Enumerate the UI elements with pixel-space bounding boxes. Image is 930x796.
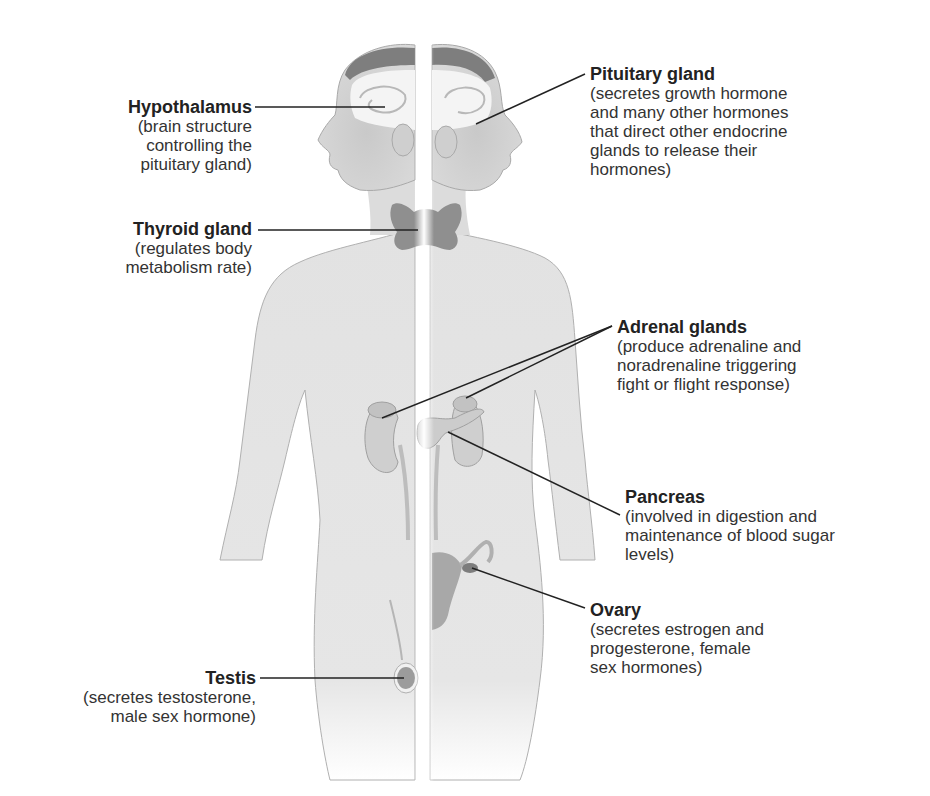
pituitary-title: Pituitary gland [590, 64, 850, 84]
adrenal-desc: (produce adrenaline and noradrenaline tr… [617, 337, 877, 394]
label-ovary: Ovary (secretes estrogen and progesteron… [590, 600, 850, 677]
endocrine-diagram: Hypothalamus (brain structure controllin… [0, 0, 930, 796]
thyroid-title: Thyroid gland [95, 219, 252, 239]
label-pituitary: Pituitary gland (secretes growth hormone… [590, 64, 850, 179]
label-adrenal: Adrenal glands (produce adrenaline and n… [617, 317, 877, 394]
label-pancreas: Pancreas (involved in digestion and main… [625, 487, 905, 564]
ovary-desc: (secretes estrogen and progesterone, fem… [590, 620, 850, 677]
adrenal-title: Adrenal glands [617, 317, 877, 337]
hypothalamus-desc: (brain structure controlling the pituita… [95, 117, 252, 174]
label-thyroid: Thyroid gland (regulates body metabolism… [95, 219, 252, 277]
pancreas-desc: (involved in digestion and maintenance o… [625, 507, 905, 564]
hypothalamus-title: Hypothalamus [95, 97, 252, 117]
pituitary-desc: (secretes growth hormone and many other … [590, 84, 850, 179]
label-testis: Testis (secretes testosterone, male sex … [20, 668, 256, 726]
ovary-title: Ovary [590, 600, 850, 620]
pancreas-title: Pancreas [625, 487, 905, 507]
testis-desc: (secretes testosterone, male sex hormone… [20, 688, 256, 726]
thyroid-desc: (regulates body metabolism rate) [95, 239, 252, 277]
label-hypothalamus: Hypothalamus (brain structure controllin… [95, 97, 252, 174]
testis-title: Testis [20, 668, 256, 688]
female-half [417, 44, 595, 780]
